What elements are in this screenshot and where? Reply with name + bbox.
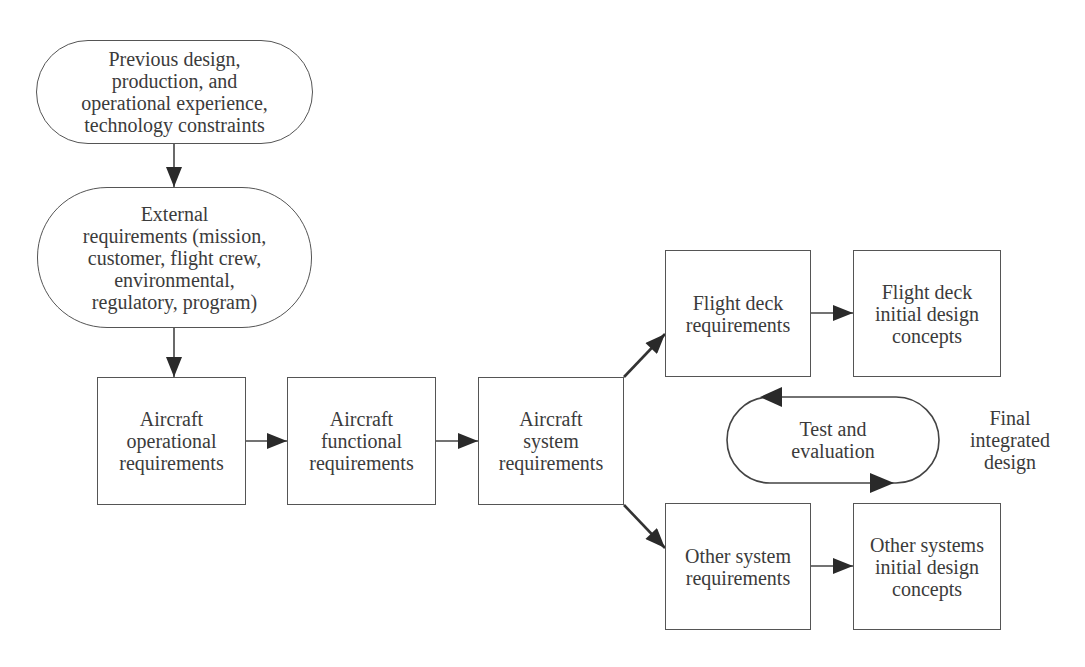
arrow-system-to-othersystem (624, 505, 665, 548)
node-flight-deck-requirements-label: Flight deck requirements (686, 292, 790, 336)
node-aircraft-operational-label: Aircraft operational requirements (119, 408, 223, 474)
node-aircraft-system-label: Aircraft system requirements (499, 408, 603, 474)
node-external-requirements-label: External requirements (mission, customer… (83, 203, 266, 313)
node-test-evaluation: Test and evaluation (727, 397, 939, 483)
node-previous-design-label: Previous design, production, and operati… (81, 48, 268, 136)
node-final-design: Final integrated design (955, 400, 1065, 480)
node-other-systems-initial: Other systems initial design concepts (853, 503, 1001, 630)
node-flight-deck-initial-label: Flight deck initial design concepts (875, 281, 979, 347)
node-flight-deck-initial: Flight deck initial design concepts (853, 250, 1001, 377)
node-final-design-label: Final integrated design (970, 407, 1050, 473)
node-other-system-requirements: Other system requirements (665, 503, 811, 630)
node-aircraft-operational: Aircraft operational requirements (97, 377, 246, 505)
node-aircraft-functional-label: Aircraft functional requirements (309, 408, 413, 474)
node-previous-design: Previous design, production, and operati… (36, 40, 313, 144)
node-other-system-requirements-label: Other system requirements (685, 545, 791, 589)
node-other-systems-initial-label: Other systems initial design concepts (870, 534, 984, 600)
node-external-requirements: External requirements (mission, customer… (37, 187, 312, 328)
flowchart-diagram: Previous design, production, and operati… (0, 0, 1085, 667)
node-aircraft-system: Aircraft system requirements (478, 377, 624, 505)
arrow-system-to-flightdeck (624, 334, 665, 377)
node-flight-deck-requirements: Flight deck requirements (665, 250, 811, 377)
node-aircraft-functional: Aircraft functional requirements (287, 377, 436, 505)
node-test-evaluation-label: Test and evaluation (791, 418, 874, 462)
